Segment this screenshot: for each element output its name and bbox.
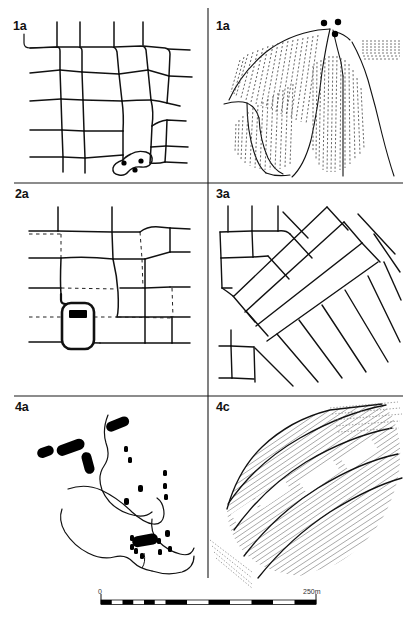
dot-feature	[134, 548, 138, 554]
boundary	[166, 146, 188, 147]
dot-feature	[165, 530, 170, 537]
boundary	[151, 126, 152, 147]
boundary	[83, 100, 84, 131]
building-structure-block	[69, 310, 87, 318]
panel-label-1: 1a	[13, 20, 27, 33]
scale-segment	[101, 600, 112, 604]
dot-feature	[163, 483, 167, 489]
dot-feature	[130, 544, 134, 550]
boundary	[221, 257, 253, 258]
dot-feature	[140, 553, 144, 559]
boundary	[112, 232, 113, 259]
scale-bar-end-label: 250m	[303, 588, 321, 595]
boundary	[151, 146, 166, 147]
scale-segment	[252, 600, 274, 604]
boundary	[83, 100, 122, 101]
building-enclosure-outline	[62, 303, 94, 349]
boundary	[61, 99, 83, 100]
dot-feature	[157, 538, 161, 544]
boundary	[62, 130, 63, 157]
scale-bar-start-label: 0	[98, 588, 102, 595]
pit-dot	[335, 19, 341, 25]
scale-segment	[209, 600, 231, 604]
panel-label-4: 3a	[216, 188, 230, 201]
dot-feature	[164, 494, 168, 500]
scale-segment	[144, 600, 155, 604]
boundary	[165, 162, 187, 163]
scale-segment	[123, 600, 134, 604]
panel-label-3: 2a	[15, 188, 29, 201]
boundary	[170, 228, 190, 229]
pit-dot	[121, 160, 126, 165]
pit-dot	[332, 31, 338, 37]
boundary	[58, 231, 112, 232]
pit-dot	[138, 158, 143, 163]
dot-feature	[124, 446, 128, 452]
boundary	[61, 99, 62, 130]
boundary	[169, 76, 192, 77]
archaeological-plan-figure	[0, 0, 417, 623]
boundary	[60, 70, 61, 99]
pit-dot	[132, 167, 137, 172]
boundary	[221, 258, 222, 288]
boundary	[252, 231, 253, 257]
boundary	[168, 49, 190, 50]
boundary	[62, 130, 84, 131]
boundary	[166, 120, 167, 146]
scale-segment	[166, 600, 188, 604]
boundary	[231, 346, 254, 347]
panel-label-2: 1a	[216, 20, 230, 33]
boundary	[231, 346, 232, 378]
dot-feature	[124, 498, 129, 505]
boundary	[253, 256, 268, 257]
dot-feature	[168, 546, 172, 552]
dot-feature	[138, 485, 143, 492]
boundary	[165, 146, 166, 162]
boundary	[82, 72, 83, 100]
boundary	[84, 131, 85, 158]
dot-feature	[158, 549, 162, 555]
boundary	[63, 157, 85, 158]
panel-label-6: 4c	[216, 401, 230, 414]
dot-feature	[130, 535, 134, 541]
boundary	[145, 287, 170, 288]
scale-segment	[295, 600, 317, 604]
pit-dot	[321, 20, 327, 26]
dot-feature	[128, 457, 132, 463]
boundary	[232, 378, 254, 379]
dot-feature	[163, 470, 167, 476]
panel-label-5: 4a	[15, 401, 29, 414]
boundary	[220, 231, 252, 232]
boundary	[220, 232, 221, 258]
boundary	[254, 347, 255, 382]
